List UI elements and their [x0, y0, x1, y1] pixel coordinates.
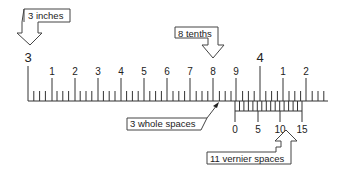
callout-vernier-spaces: 11 vernier spaces: [207, 130, 297, 164]
callout-tenths-label: 8 tenths: [178, 28, 212, 39]
callout-tenths: 8 tenths: [175, 27, 224, 58]
callout-whole-spaces-label: 3 whole spaces: [130, 118, 196, 129]
vernier-diagram: 3 inches 8 tenths 3 4 1 2 3 4 5 6 7 8 9 …: [0, 0, 346, 179]
tenth-label: 7: [187, 66, 193, 77]
tenth-label: 2: [72, 66, 78, 77]
callout-inches-label: 3 inches: [28, 10, 64, 21]
tenth-label: 1: [49, 66, 55, 77]
vernier-labels: 0 5 10 15: [232, 124, 308, 135]
tenth-label: 4: [118, 66, 124, 77]
tenth-label: 9: [233, 66, 239, 77]
tenth-label: 1: [280, 66, 286, 77]
callout-whole-spaces: 3 whole spaces: [127, 102, 219, 130]
tenth-label: 6: [164, 66, 170, 77]
vernier-scale: [235, 101, 302, 122]
callout-inches: 3 inches: [17, 9, 70, 45]
tenth-label: 5: [141, 66, 147, 77]
vernier-label: 0: [232, 124, 238, 135]
tenth-label: 8: [210, 66, 216, 77]
main-scale-tenth-labels: 1 2 3 4 5 6 7 8 9 1 2: [49, 66, 309, 77]
vernier-label: 15: [296, 124, 308, 135]
main-scale-inch-3: 3: [24, 50, 31, 65]
main-scale-inch-4: 4: [256, 50, 263, 65]
tenth-label: 2: [303, 66, 309, 77]
callout-vernier-spaces-label: 11 vernier spaces: [210, 153, 285, 164]
vernier-label: 5: [255, 124, 261, 135]
tenth-label: 3: [95, 66, 101, 77]
